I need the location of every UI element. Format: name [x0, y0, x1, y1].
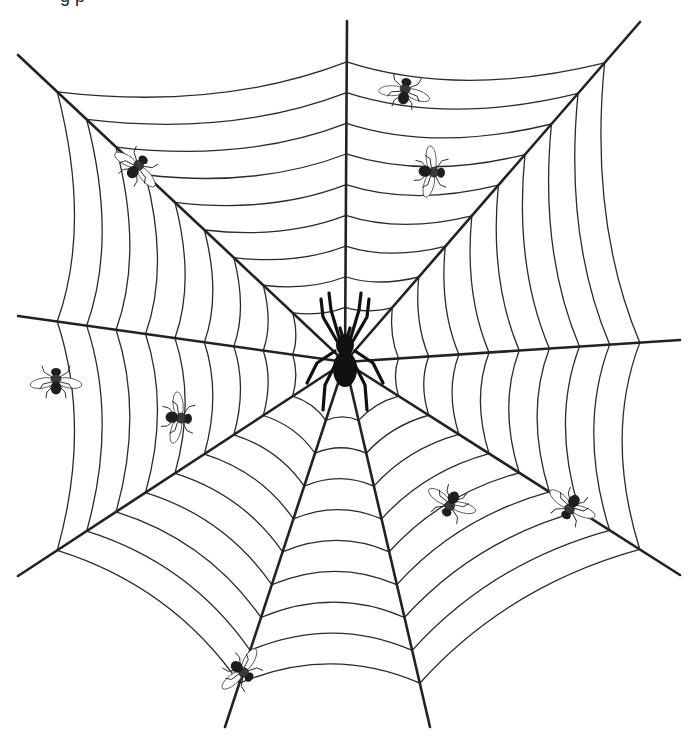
- spiral-thread: [261, 602, 405, 617]
- spiral-thread: [234, 258, 241, 347]
- spiral-thread: [395, 358, 398, 396]
- fly-icon: [420, 477, 482, 529]
- spiral-thread: [204, 342, 212, 454]
- fly-icon: [540, 479, 602, 533]
- spiral-thread: [537, 349, 549, 492]
- spiral-thread: [293, 307, 346, 313]
- spiral-thread: [146, 493, 272, 585]
- spiral-thread: [565, 347, 579, 512]
- spiral-thread: [575, 93, 610, 344]
- spiral-thread: [146, 154, 347, 178]
- spiral-thread: [263, 277, 345, 287]
- spiral-thread: [239, 664, 419, 683]
- spiral-thread: [263, 416, 315, 454]
- spiral-thread: [293, 313, 296, 355]
- spiral-thread: [444, 246, 459, 354]
- spiral-thread: [116, 512, 261, 618]
- spiral-thread: [234, 346, 241, 434]
- spiral-thread: [283, 540, 390, 551]
- spiral-thread: [87, 531, 251, 650]
- spiral-thread: [87, 119, 102, 325]
- spiral-thread: [234, 435, 304, 486]
- spiral-thread: [146, 175, 158, 334]
- spiral-thread: [347, 62, 605, 80]
- fly-icon: [212, 640, 271, 701]
- spiral-thread: [146, 334, 158, 493]
- spiral-thread: [374, 434, 459, 486]
- radial-thread-lower-left: [18, 362, 345, 576]
- spiral-thread: [424, 357, 429, 416]
- spiral-thread: [250, 633, 412, 650]
- spiral-thread: [263, 351, 268, 416]
- spiral-thread: [293, 355, 296, 397]
- spiral-thread: [57, 92, 74, 322]
- spiral-thread: [392, 308, 399, 359]
- spiral-thread: [622, 343, 640, 550]
- spiral-thread: [420, 549, 640, 683]
- spiral-thread: [57, 550, 239, 683]
- spiral-thread: [347, 93, 578, 110]
- spiral-thread: [116, 123, 346, 151]
- spiral-thread: [418, 277, 429, 357]
- spiral-thread: [272, 571, 397, 584]
- spiral-thread: [57, 62, 347, 97]
- spiral-thread: [116, 330, 130, 512]
- spiral-thread: [175, 185, 346, 206]
- spiral-thread: [522, 155, 549, 349]
- spiral-thread: [594, 345, 610, 531]
- spiral-thread: [204, 215, 345, 232]
- spiral-thread: [412, 530, 610, 650]
- spiral-thread: [346, 123, 551, 138]
- fly-icon: [29, 366, 82, 398]
- spiral-thread: [509, 351, 519, 473]
- spiral-thread: [496, 185, 519, 350]
- fly-icon: [160, 390, 197, 446]
- spider-web-illustration: [0, 0, 699, 740]
- spiral-thread: [346, 185, 498, 196]
- spiral-thread: [263, 285, 268, 350]
- spiral-thread: [293, 510, 381, 519]
- spiral-thread: [346, 277, 419, 282]
- fly-icon: [413, 144, 450, 200]
- radial-thread-lower-right: [345, 362, 680, 575]
- spiral-thread: [452, 355, 459, 435]
- spider-abdomen: [333, 351, 357, 387]
- spiral-thread: [601, 63, 640, 343]
- spiral-thread: [175, 202, 185, 338]
- spiral-thread: [87, 326, 102, 531]
- spiral-thread: [405, 511, 580, 617]
- spiral-thread: [304, 479, 374, 486]
- spiral-thread: [57, 322, 74, 551]
- spiral-thread: [480, 353, 489, 454]
- spiral-thread: [397, 492, 549, 585]
- spiral-thread: [470, 216, 489, 353]
- spiral-thread: [366, 415, 429, 453]
- spiral-thread: [326, 417, 359, 421]
- spiral-thread: [175, 473, 283, 552]
- spiral-thread: [204, 454, 293, 519]
- spiral-thread: [204, 230, 212, 342]
- spiral-thread: [315, 448, 366, 453]
- spiral-thread: [346, 215, 472, 224]
- radial-thread-top: [345, 21, 347, 362]
- spiral-thread: [346, 246, 446, 253]
- spiral-thread: [234, 246, 346, 260]
- spiral-thread: [293, 396, 326, 420]
